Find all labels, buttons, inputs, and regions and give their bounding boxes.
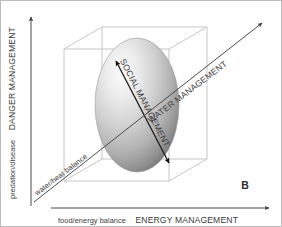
depth-axis-qualifier-text: water/heat balance xyxy=(32,152,89,198)
box-edge-tl xyxy=(64,27,102,49)
figure-panel: predation/disease DANGER MANAGEMENT food… xyxy=(0,0,282,227)
horizontal-axis-title: ENERGY MANAGEMENT xyxy=(135,215,238,225)
vertical-axis-qualifier: predation/disease xyxy=(8,140,17,199)
horizontal-axis-label-group: food/energy balance ENERGY MANAGEMENT xyxy=(58,209,239,226)
horizontal-axis-qualifier: food/energy balance xyxy=(58,216,126,225)
box-edge-tr xyxy=(169,27,207,49)
vertical-axis-title: DANGER MANAGEMENT xyxy=(7,26,17,130)
depth-axis-qualifier: water/heat balance xyxy=(32,152,89,198)
box-edge-br xyxy=(169,159,207,181)
panel-label: B xyxy=(241,179,249,191)
diagram-canvas: predation/disease DANGER MANAGEMENT food… xyxy=(1,1,282,227)
vertical-axis-label-group: predation/disease DANGER MANAGEMENT xyxy=(1,26,18,199)
